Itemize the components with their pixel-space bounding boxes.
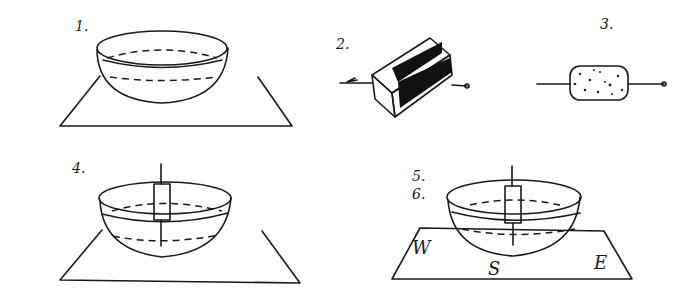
direction-south: S [488,258,500,279]
panel-1-bowl [60,31,292,126]
direction-west: W [412,237,431,258]
step-label-6: 6. [412,186,425,202]
step-label-1: 1. [75,18,88,34]
step-label-5: 5. [412,168,425,184]
direction-east: E [594,252,607,273]
panel-2-magnet [340,38,469,117]
step-label-3: 3. [600,16,613,32]
panel-4-floating-cork [60,164,300,283]
step-label-4: 4. [72,160,85,176]
panel-3-cork [537,66,666,100]
step-label-2: 2. [336,36,349,52]
